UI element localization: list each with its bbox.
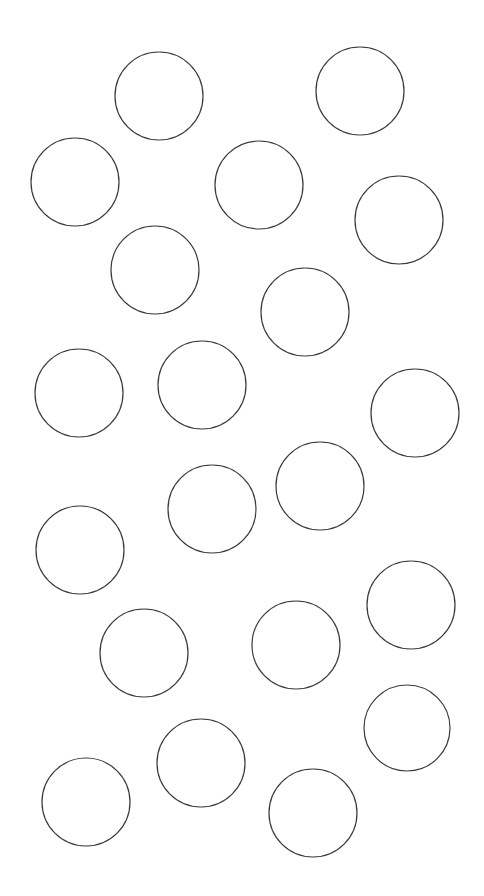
circle-outline	[36, 506, 124, 594]
circle-outline	[115, 52, 203, 140]
circle-outline	[158, 341, 246, 429]
circle-group	[31, 47, 459, 857]
circle-outline	[168, 465, 256, 553]
circle-outline	[316, 47, 404, 135]
circle-outline	[276, 442, 364, 530]
circle-outline	[31, 138, 119, 226]
circle-outline	[261, 268, 349, 356]
circle-outline	[371, 369, 459, 457]
circle-outline	[269, 769, 357, 857]
circle-outline	[35, 349, 123, 437]
circle-outline	[157, 719, 245, 807]
circle-outline	[367, 561, 455, 649]
circle-outline	[364, 685, 450, 771]
circle-outline	[100, 609, 188, 697]
circle-outline	[111, 226, 199, 314]
circle-outline	[215, 141, 303, 229]
circle-outline	[42, 758, 130, 846]
circle-outline	[252, 601, 340, 689]
circle-canvas	[0, 0, 484, 896]
circle-outline	[355, 176, 443, 264]
